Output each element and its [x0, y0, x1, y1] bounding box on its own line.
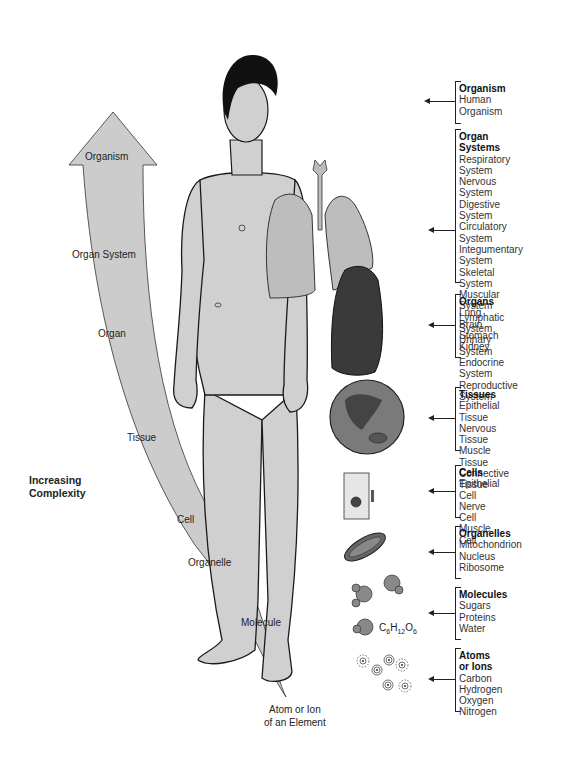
pointer-arrow-molecules [432, 613, 455, 614]
group-item: Respiratory System [459, 154, 523, 177]
increasing-complexity-label: Increasing Complexity [29, 474, 86, 500]
group-title: Tissues [459, 389, 509, 400]
group-item: Skeletal System [459, 267, 523, 290]
atom-label-line-1: Atom or Ion [264, 703, 326, 716]
group-item: Digestive System [459, 199, 523, 222]
group-item: Proteins [459, 612, 507, 623]
group-item: Water [459, 623, 507, 634]
pointer-arrow-tissues [432, 418, 455, 419]
atom-or-ion-label: Atom or Ion of an Element [264, 703, 326, 729]
group-item: Sugars [459, 600, 507, 611]
group-item: Nerve Cell [459, 501, 500, 524]
level-label-organ: Organ [98, 328, 126, 339]
pointer-arrow-organelles [432, 552, 455, 553]
level-label-organelle: Organelle [188, 557, 231, 568]
group-title: Cells [459, 467, 500, 478]
group-item: Hydrogen [459, 684, 502, 695]
group-item: Epithelial Tissue [459, 400, 509, 423]
group-title: Organ Systems [459, 131, 523, 154]
pointer-arrow-organism [428, 101, 455, 102]
group-item: Nervous System [459, 176, 523, 199]
pointer-arrow-organ-systems [432, 230, 455, 231]
group-item: Nitrogen [459, 706, 502, 717]
group-item: Epithelial Cell [459, 478, 500, 501]
group-item: Endocrine System [459, 357, 523, 380]
group-item: Nervous Tissue [459, 423, 509, 446]
pointer-arrow-atoms [432, 679, 455, 680]
group-item: Nucleus [459, 551, 522, 562]
group-title: Organism [459, 83, 506, 94]
group-title: Atoms or Ions [459, 650, 502, 673]
levels-of-organization-diagram: Organism Organ System Organ Tissue Cell … [0, 0, 584, 757]
group-item: Lung [459, 307, 498, 318]
group-item: Integumentary System [459, 244, 523, 267]
level-label-tissue: Tissue [127, 432, 156, 443]
group-item: Circulatory System [459, 221, 523, 244]
group-item: Oxygen [459, 695, 502, 706]
level-label-cell: Cell [177, 514, 194, 525]
level-label-organism: Organism [85, 151, 128, 162]
group-item: Muscle Tissue [459, 445, 509, 468]
group-item: Ribosome [459, 562, 522, 573]
glucose-formula: C6H12O6 [379, 622, 417, 635]
level-label-organ-system: Organ System [72, 249, 136, 260]
pointer-arrow-organs [432, 325, 455, 326]
atom-label-line-2: of an Element [264, 716, 326, 729]
complexity-line-1: Increasing [29, 474, 86, 487]
group-title: Organs [459, 296, 498, 307]
group-item: Stomach [459, 330, 498, 341]
group-item: Human Organism [459, 94, 506, 117]
group-item: Carbon [459, 673, 502, 684]
level-label-molecule: Molecule [241, 617, 281, 628]
group-item: Mitochondrion [459, 539, 522, 550]
group-item: Kidney [459, 341, 498, 352]
pointer-arrow-cells [432, 491, 455, 492]
group-item: Brain [459, 319, 498, 330]
group-title: Organelles [459, 528, 522, 539]
group-title: Molecules [459, 589, 507, 600]
complexity-line-2: Complexity [29, 487, 86, 500]
